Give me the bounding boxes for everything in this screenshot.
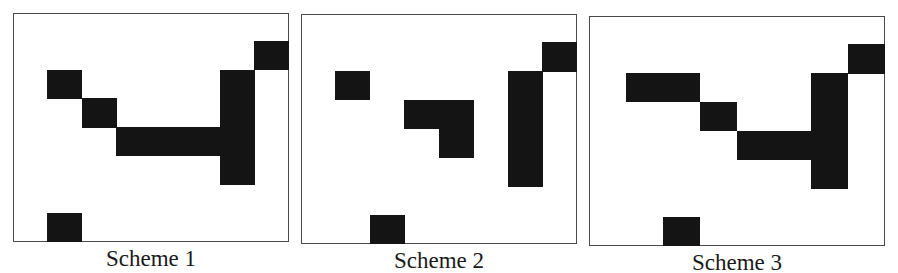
filled-cell: [848, 44, 886, 73]
filled-cell: [47, 70, 82, 99]
filled-cell: [185, 127, 220, 156]
scheme-2-caption: Scheme 2: [359, 249, 519, 272]
filled-cell: [663, 73, 701, 102]
filled-cell: [508, 157, 543, 186]
filled-cell: [542, 42, 577, 71]
filled-cell: [439, 100, 474, 129]
filled-cell: [254, 41, 289, 70]
filled-cell: [151, 127, 186, 156]
filled-cell: [220, 70, 255, 99]
filled-cell: [811, 159, 849, 188]
filled-cell: [508, 129, 543, 158]
filled-cell: [439, 129, 474, 158]
filled-cell: [811, 102, 849, 131]
filled-cell: [116, 127, 151, 156]
scheme-3-caption: Scheme 3: [657, 251, 817, 273]
filled-cell: [508, 100, 543, 129]
filled-cell: [47, 213, 82, 242]
scheme-1-grid: [13, 13, 289, 242]
filled-cell: [700, 102, 738, 131]
scheme-1-caption: Scheme 1: [71, 247, 231, 270]
scheme-2-grid: [301, 14, 577, 244]
filled-cell: [335, 71, 370, 100]
filled-cell: [737, 131, 775, 160]
filled-cell: [220, 98, 255, 127]
filled-cell: [663, 217, 701, 246]
filled-cell: [220, 127, 255, 156]
filled-cell: [774, 131, 812, 160]
filled-cell: [404, 100, 439, 129]
filled-cell: [811, 131, 849, 160]
filled-cell: [370, 215, 405, 244]
filled-cell: [508, 71, 543, 100]
filled-cell: [220, 156, 255, 185]
scheme-3-grid: [589, 16, 885, 246]
filled-cell: [626, 73, 664, 102]
filled-cell: [811, 73, 849, 102]
filled-cell: [82, 98, 117, 127]
